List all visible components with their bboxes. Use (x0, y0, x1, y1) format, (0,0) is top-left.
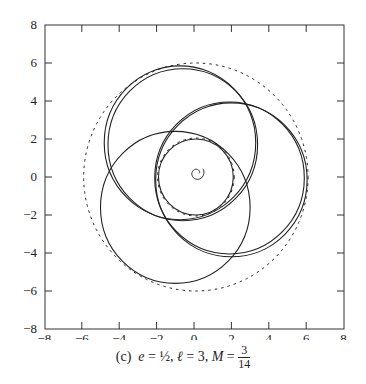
y-tick-label: −8 (23, 321, 37, 336)
x-tick-label: −4 (112, 331, 126, 340)
x-tick-label: 6 (303, 331, 310, 340)
y-tick-label: −2 (23, 207, 37, 222)
y-tick-label: −6 (23, 283, 37, 298)
horizon-outer (84, 63, 308, 291)
y-tick-label: 8 (31, 17, 38, 32)
caption-l: 3 (198, 349, 205, 364)
plot-frame (45, 25, 344, 329)
central-spiral (192, 169, 204, 180)
y-tick-label: 2 (31, 131, 38, 146)
axis-ticks (45, 25, 344, 329)
caption-e: ½ (159, 349, 170, 364)
orbit-plot: −8−6−4−20246886420−2−4−6−8 (0, 0, 366, 340)
y-tick-label: 4 (31, 93, 38, 108)
horizon-inner (158, 138, 235, 216)
orbit-loop-right-2 (155, 102, 305, 254)
x-tick-label: 2 (228, 331, 235, 340)
orbit-loop-lower-left (101, 131, 251, 283)
y-tick-label: 0 (31, 169, 38, 184)
y-tick-label: 6 (31, 55, 38, 70)
x-tick-label: 8 (340, 331, 347, 340)
x-tick-label: −8 (37, 331, 51, 340)
y-tick-label: −4 (23, 245, 37, 260)
orbit-curves (84, 63, 308, 291)
orbit-inner (158, 139, 233, 215)
orbit-loop-upper-2 (108, 69, 258, 221)
caption-label: (c) (116, 349, 132, 364)
x-tick-label: 4 (266, 331, 273, 340)
figure-caption: (c) e = ½, ℓ = 3, M = 3 14 (0, 344, 366, 371)
caption-m-fraction: 3 14 (238, 344, 250, 371)
x-tick-label: −2 (150, 331, 164, 340)
x-tick-label: 0 (191, 331, 198, 340)
x-tick-label: −6 (75, 331, 89, 340)
tick-labels: −8−6−4−20246886420−2−4−6−8 (23, 17, 347, 340)
